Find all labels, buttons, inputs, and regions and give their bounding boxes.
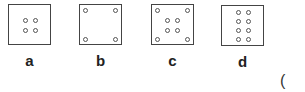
dot-icon	[185, 37, 190, 42]
dot-icon	[236, 10, 241, 15]
figure-a-box	[8, 4, 51, 45]
dot-icon	[236, 19, 241, 24]
dot-icon	[33, 18, 38, 23]
dot-icon	[23, 28, 28, 33]
dot-icon	[33, 28, 38, 33]
dot-icon	[83, 37, 88, 42]
dot-icon	[23, 18, 28, 23]
figure-c-box	[151, 4, 194, 45]
dot-icon	[165, 28, 170, 33]
dot-icon	[113, 8, 118, 13]
dot-icon	[236, 28, 241, 33]
answer-bracket: (	[280, 72, 285, 90]
dot-icon	[155, 37, 160, 42]
dot-icon	[246, 19, 251, 24]
dot-icon	[175, 28, 180, 33]
dot-icon	[165, 18, 170, 23]
dot-icon	[246, 37, 251, 42]
figure-d-box	[221, 5, 264, 46]
dot-icon	[155, 8, 160, 13]
dot-icon	[185, 8, 190, 13]
figure-c-label: c	[151, 52, 194, 69]
figure-b-label: b	[79, 52, 122, 69]
dot-icon	[113, 37, 118, 42]
figure-a-label: a	[8, 52, 51, 69]
dot-icon	[175, 18, 180, 23]
dot-icon	[83, 8, 88, 13]
dot-icon	[236, 37, 241, 42]
figure-b-box	[79, 4, 122, 45]
figure-d-label: d	[221, 53, 264, 70]
dot-icon	[246, 10, 251, 15]
dot-icon	[246, 28, 251, 33]
